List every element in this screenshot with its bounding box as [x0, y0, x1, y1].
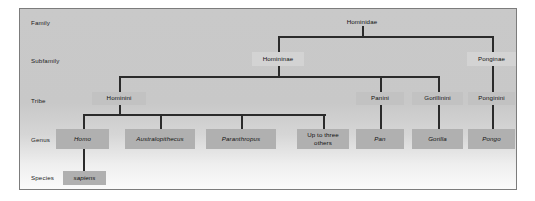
- connector-to-gorillinini: [438, 76, 440, 92]
- node-pongo[interactable]: Pongo: [468, 129, 515, 149]
- connector-family-bar: [278, 36, 494, 38]
- node-pan[interactable]: Pan: [356, 129, 404, 149]
- node-hominidae[interactable]: Hominidae: [333, 17, 391, 27]
- rank-label-subfamily: Subfamily: [31, 58, 60, 64]
- diagram-panel: Family Subfamily Tribe Genus Species: [19, 8, 517, 190]
- node-hominini[interactable]: Hominini: [92, 92, 146, 106]
- node-sapiens[interactable]: sapiens: [63, 171, 106, 185]
- node-paranthropus[interactable]: Paranthropus: [206, 129, 276, 149]
- rank-label-genus: Genus: [31, 137, 50, 143]
- taxonomy-figure: Family Subfamily Tribe Genus Species: [0, 0, 535, 201]
- rank-label-tribe: Tribe: [31, 98, 46, 104]
- connector-ponginae-ponginini: [492, 66, 494, 92]
- node-australopithecus[interactable]: Australopithecus: [125, 129, 195, 149]
- connector-to-paranthropus: [241, 114, 243, 129]
- node-ponginini[interactable]: Ponginini: [468, 92, 515, 106]
- node-up-to-three-others[interactable]: Up to three others: [297, 129, 349, 149]
- connector-tribe-bar: [83, 114, 326, 116]
- connector-to-panini: [380, 76, 382, 92]
- connector-to-homininae: [278, 36, 280, 53]
- node-panini[interactable]: Panini: [356, 92, 404, 106]
- connector-to-homo: [83, 114, 85, 129]
- rank-label-family: Family: [31, 20, 50, 26]
- node-gorillinini[interactable]: Gorillinini: [412, 92, 463, 106]
- connector-ponginini-pongo: [492, 105, 494, 129]
- node-gorilla[interactable]: Gorilla: [412, 129, 463, 149]
- connector-to-ponginae: [492, 36, 494, 53]
- connector-to-australopithecus: [160, 114, 162, 129]
- rank-label-species: Species: [31, 175, 54, 181]
- connector-gorillinini-gorilla: [438, 105, 440, 129]
- connector-to-others: [323, 114, 325, 129]
- node-homo[interactable]: Homo: [56, 129, 109, 149]
- node-ponginae[interactable]: Ponginae: [467, 52, 516, 66]
- connector-subfamily-bar: [119, 76, 440, 78]
- connector-homo-sapiens: [83, 149, 85, 171]
- connector-to-hominini: [119, 76, 121, 92]
- node-homininae[interactable]: Homininae: [252, 52, 304, 66]
- connector-panini-pan: [380, 105, 382, 129]
